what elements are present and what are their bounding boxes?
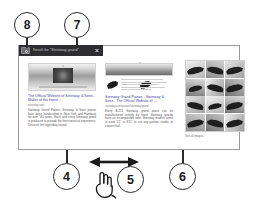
thumbnail-logo-dot (139, 62, 141, 64)
image-tile[interactable] (206, 114, 225, 131)
result-title-link[interactable]: The Official Website of Steinway & Sons … (28, 94, 96, 103)
search-results-row: The Official Website of Steinway & Sons … (19, 57, 239, 149)
image-collage-grid[interactable] (185, 60, 245, 132)
callout-5: 5 (117, 166, 144, 193)
web-result-card[interactable]: Steinway Grand Pianos - Steinway & Sons … (105, 63, 173, 128)
image-tile[interactable] (225, 96, 244, 113)
callout-6-label: 6 (179, 170, 186, 184)
thumbnail-logo-dot (62, 65, 64, 67)
search-input[interactable]: Result for "Steinway grand" (33, 45, 95, 56)
result-snippet: Steinway Grand Pianos. Steinway & Sons p… (28, 109, 96, 127)
callout-7: 7 (64, 12, 90, 38)
result-url: steinway.com/pianos/steinway/grand (105, 105, 173, 108)
result-inline-images (105, 78, 173, 92)
image-tile[interactable] (186, 79, 205, 96)
callout-7-leader-line (76, 38, 78, 48)
result-thumbnail-image (105, 63, 173, 76)
callout-4-label: 4 (63, 170, 70, 184)
result-title-link[interactable]: Steinway Grand Pianos - Steinway & Sons … (105, 95, 173, 104)
image-tile[interactable] (206, 61, 225, 78)
image-tile[interactable] (206, 79, 225, 96)
thumbnail-caption-line-1 (39, 86, 87, 88)
callout-8: 8 (14, 12, 40, 38)
result-url: steinway.com (28, 104, 96, 107)
image-tile[interactable] (225, 79, 244, 96)
pointing-hand-icon (92, 170, 118, 200)
close-icon[interactable] (94, 47, 100, 54)
thumbnail-caption-line-2 (45, 83, 81, 85)
image-tile[interactable] (206, 96, 225, 113)
patent-figure: 8 7 4 5 6 Result for "Steinway grand" (0, 0, 255, 206)
callout-8-label: 8 (24, 18, 31, 32)
web-result-card[interactable]: The Official Website of Steinway & Sons … (28, 63, 96, 127)
grand-piano-icon (107, 81, 118, 90)
callout-7-label: 7 (74, 18, 81, 32)
image-tile[interactable] (186, 96, 205, 113)
result-snippet: Every B-211 Steinway grand piano can be … (105, 110, 173, 128)
image-tile[interactable] (225, 61, 244, 78)
image-tile[interactable] (225, 114, 244, 131)
callout-6: 6 (169, 163, 196, 190)
see-all-images-link[interactable]: See all images (185, 135, 245, 138)
callout-4: 4 (53, 163, 80, 190)
result-thumbnail-image (28, 63, 96, 91)
search-query-bar[interactable]: Result for "Steinway grand" (19, 45, 103, 56)
image-tile[interactable] (186, 61, 205, 78)
callout-4-leader-line (66, 150, 68, 163)
callout-6-leader-line (182, 150, 184, 163)
result-inline-text-lines (121, 79, 169, 91)
image-tile[interactable] (186, 114, 205, 131)
callout-8-leader-line (26, 38, 28, 48)
callout-5-label: 5 (127, 173, 134, 187)
image-results-panel[interactable]: See all images (185, 60, 245, 138)
